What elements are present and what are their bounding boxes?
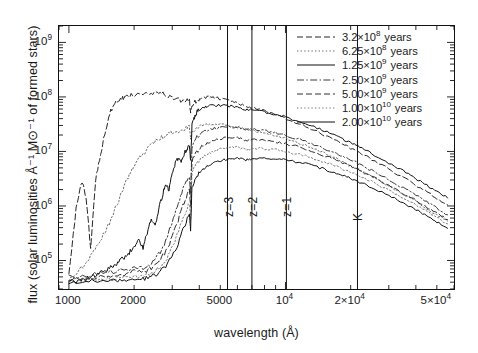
legend-line-sample-dashed (296, 89, 336, 99)
x-tick-label-1: 2000 (120, 294, 146, 306)
annotation-label-k-band-line: K (351, 213, 365, 221)
legend-unit: years (390, 45, 417, 57)
x-tick-label-0: 1000 (55, 294, 81, 306)
legend-item-2.50e9: 2.50×109years (296, 73, 456, 87)
legend-unit: years (395, 116, 422, 128)
legend-item-1.00e10: 1.00×1010years (296, 101, 456, 115)
x-tick-label-3: 104 (276, 294, 293, 306)
legend-label: 1.00×1010 (342, 102, 391, 114)
x-tick-label-4: 2×104 (334, 294, 365, 306)
annotation-label-z3-line: z=3 (222, 196, 236, 217)
annotation-label-z2-line: z=2 (246, 196, 260, 217)
x-tick-label-2: 5000 (206, 294, 232, 306)
y-tick-label-2: 107 (4, 144, 52, 156)
legend-item-3.2e8: 3.2×108years (296, 30, 456, 44)
legend-line-sample-solid (296, 60, 336, 70)
legend-label: 1.25×109 (342, 59, 386, 71)
legend-item-1.25e9: 1.25×109years (296, 58, 456, 72)
legend-line-sample-dashdot (296, 75, 336, 85)
legend-unit: years (384, 31, 411, 43)
legend-line-sample-dotted (296, 103, 336, 113)
legend-label: 6.25×108 (342, 45, 386, 57)
legend-label: 5.00×109 (342, 88, 386, 100)
series-line-2.00e10 (69, 157, 448, 283)
figure-root: flux (solar luminosities Å⁻¹ M⊙⁻¹ of for… (0, 0, 478, 353)
legend-label: 2.50×109 (342, 74, 386, 86)
y-tick-label-1: 106 (4, 199, 52, 211)
legend-label: 3.2×108 (342, 31, 380, 43)
legend-unit: years (390, 74, 417, 86)
y-tick-label-3: 108 (4, 90, 52, 102)
legend-item-5.00e9: 5.00×109years (296, 87, 456, 101)
legend: 3.2×108years6.25×108years1.25×109years2.… (296, 30, 456, 129)
legend-label: 2.00×1010 (342, 116, 391, 128)
legend-line-sample-dashed (296, 32, 336, 42)
legend-line-sample-dotted (296, 46, 336, 56)
legend-unit: years (390, 88, 417, 100)
x-tick-label-5: 5×104 (421, 294, 452, 306)
y-tick-label-4: 109 (4, 35, 52, 47)
legend-item-2.00e10: 2.00×1010years (296, 115, 456, 129)
legend-line-sample-solid (296, 117, 336, 127)
x-axis-title: wavelength (Å) (58, 326, 455, 340)
y-tick-label-0: 105 (4, 253, 52, 265)
legend-item-6.25e8: 6.25×108years (296, 44, 456, 58)
y-axis-title: flux (solar luminosities Å⁻¹ M⊙⁻¹ of for… (25, 15, 40, 315)
legend-unit: years (395, 102, 422, 114)
legend-unit: years (390, 59, 417, 71)
annotation-label-z1-line: z=1 (280, 196, 294, 217)
